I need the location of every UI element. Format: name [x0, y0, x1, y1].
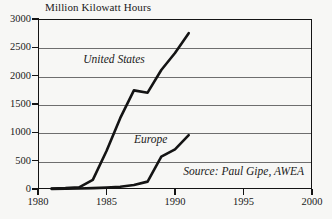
gridline: [39, 77, 311, 78]
x-axis-tick: [106, 189, 108, 195]
x-axis-tick: [311, 189, 313, 195]
y-axis-tick-label: 0: [1, 184, 31, 195]
chart-screenshot: Million Kilowatt Hours 05001000150020002…: [0, 0, 332, 219]
x-axis-tick-label: 2000: [292, 197, 332, 208]
gridline: [39, 133, 311, 134]
x-axis-tick: [37, 189, 39, 195]
x-axis-tick-label: 1980: [18, 197, 58, 208]
gridline: [39, 105, 311, 106]
gridline: [39, 162, 311, 163]
x-axis-tick: [243, 189, 245, 195]
annotation-united-states: United States: [83, 53, 145, 65]
y-axis-labels: 050010001500200025003000: [0, 0, 31, 219]
plot-frame: [38, 19, 312, 189]
y-axis-tick-label: 1500: [1, 99, 31, 110]
chart-title: Million Kilowatt Hours: [45, 1, 151, 13]
annotation-source: Source: Paul Gipe, AWEA: [183, 165, 304, 177]
gridline: [39, 48, 311, 49]
annotation-europe: Europe: [134, 133, 167, 145]
y-axis-tick-label: 1000: [1, 127, 31, 138]
y-axis-tick-label: 2500: [1, 42, 31, 53]
x-axis-tick-label: 1985: [87, 197, 127, 208]
y-axis-tick-label: 3000: [1, 14, 31, 25]
x-axis-tick: [174, 189, 176, 195]
y-axis-tick-label: 2000: [1, 71, 31, 82]
y-axis-tick-label: 500: [1, 156, 31, 167]
x-axis-tick-label: 1990: [155, 197, 195, 208]
x-axis-tick-label: 1995: [224, 197, 264, 208]
